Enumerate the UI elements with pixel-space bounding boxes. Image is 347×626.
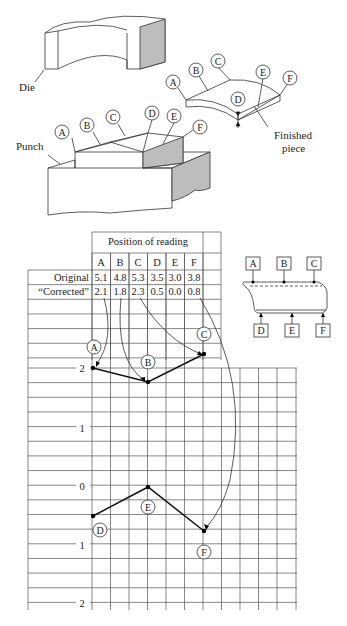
cell: 3.0 bbox=[168, 272, 181, 283]
col-f: F bbox=[191, 257, 197, 268]
inset-label-b: B bbox=[281, 258, 288, 269]
punch-label-e: E bbox=[171, 111, 177, 122]
point-label-b: B bbox=[145, 357, 152, 368]
cell: 4.8 bbox=[113, 272, 126, 283]
cell: 3.5 bbox=[150, 272, 163, 283]
point-f bbox=[202, 529, 206, 533]
punch-label-d: D bbox=[148, 108, 155, 119]
inset-label-e: E bbox=[289, 325, 295, 336]
axis-tick-2-upper: 2 bbox=[79, 363, 84, 374]
point-a bbox=[91, 366, 95, 370]
point-e bbox=[146, 485, 150, 489]
col-c: C bbox=[134, 257, 141, 268]
point-d bbox=[91, 514, 95, 518]
col-a: A bbox=[97, 257, 105, 268]
die-punch-diagram: A B C D E F A B C D E F Die Punch Finish… bbox=[0, 0, 347, 626]
axis-tick-2-lower: 2 bbox=[79, 598, 84, 609]
col-e: E bbox=[172, 257, 178, 268]
cell: 5.1 bbox=[94, 272, 107, 283]
punch-label-a: A bbox=[58, 127, 66, 138]
finished-label-2: piece bbox=[282, 142, 305, 154]
point-label-c: C bbox=[201, 329, 208, 340]
cell: 0.5 bbox=[150, 286, 163, 297]
piece-label-a: A bbox=[169, 77, 177, 88]
point-c bbox=[202, 352, 206, 356]
point-b bbox=[146, 380, 150, 384]
cell: 5.3 bbox=[131, 272, 144, 283]
die-block bbox=[45, 16, 165, 69]
row-corrected-label: “Corrected” bbox=[38, 286, 89, 297]
finished-label-1: Finished bbox=[274, 129, 312, 141]
inset-label-c: C bbox=[311, 258, 318, 269]
row-original-label: Original bbox=[54, 272, 89, 283]
piece-label-d: D bbox=[234, 94, 241, 105]
readings-table: Position of reading A B C D E F Original… bbox=[38, 236, 200, 297]
piece-label-f: F bbox=[287, 73, 293, 84]
piece-label-c: C bbox=[215, 56, 222, 67]
cell: 0.8 bbox=[187, 286, 200, 297]
table-header: Position of reading bbox=[108, 236, 189, 247]
punch-label-f: F bbox=[197, 122, 203, 133]
cell: 3.8 bbox=[187, 272, 200, 283]
inset-label-a: A bbox=[249, 258, 257, 269]
punch-label: Punch bbox=[16, 140, 44, 152]
point-label-d: D bbox=[96, 525, 103, 536]
piece-label-e: E bbox=[260, 67, 266, 78]
axis-tick-1-upper: 1 bbox=[79, 423, 84, 434]
inset-label-f: F bbox=[320, 325, 326, 336]
point-label-f: F bbox=[201, 547, 207, 558]
punch-block bbox=[48, 133, 210, 215]
axis-tick-0-lower: 0 bbox=[79, 481, 84, 492]
punch-label-b: B bbox=[84, 120, 91, 131]
cell: 2.1 bbox=[94, 286, 107, 297]
inset-piece bbox=[243, 257, 330, 337]
inset-label-d: D bbox=[257, 325, 264, 336]
piece-label-b: B bbox=[193, 65, 200, 76]
axis-tick-1-lower: 1 bbox=[79, 540, 84, 551]
col-b: B bbox=[116, 257, 123, 268]
die-label: Die bbox=[19, 81, 35, 93]
cell: 2.3 bbox=[131, 286, 144, 297]
punch-label-c: C bbox=[110, 112, 117, 123]
point-label-a: A bbox=[90, 342, 98, 353]
col-d: D bbox=[153, 257, 161, 268]
cell: 0.0 bbox=[168, 286, 181, 297]
cell: 1.8 bbox=[113, 286, 126, 297]
point-label-e: E bbox=[145, 502, 151, 513]
